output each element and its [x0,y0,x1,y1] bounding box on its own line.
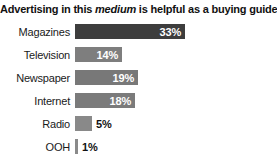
value-label: 1% [82,141,98,153]
value-label: 33% [160,26,185,38]
bar-chart: Magazines33%Television14%Newspaper19%Int… [0,20,277,158]
value-label: 19% [113,72,138,84]
chart-title-prefix: Advertising in this [0,3,95,15]
chart-title: Advertising in this medium is helpful as… [0,0,277,15]
chart-row: Magazines33% [0,20,277,43]
value-label: 18% [110,95,135,107]
value-label: 5% [96,118,112,130]
value-label: 14% [97,49,122,61]
chart-row: Internet18% [0,89,277,112]
chart-row: Newspaper19% [0,66,277,89]
bar-magazines: 33% [75,24,185,39]
chart-row: Radio5% [0,112,277,135]
category-label: OOH [0,141,75,153]
chart-title-suffix: is helpful as a buying guide [136,3,277,15]
bar-internet: 18% [75,93,135,108]
category-label: Television [0,49,75,61]
bar-newspaper: 19% [75,70,138,85]
bar-television: 14% [75,47,122,62]
category-label: Internet [0,95,75,107]
chart-canvas: Advertising in this medium is helpful as… [0,0,277,167]
category-label: Radio [0,118,75,130]
chart-row: OOH1% [0,135,277,158]
chart-title-emphasis: medium [95,3,136,15]
category-label: Newspaper [0,72,75,84]
category-label: Magazines [0,26,75,38]
chart-row: Television14% [0,43,277,66]
bar-radio [75,116,92,131]
bar-ooh [75,139,78,154]
